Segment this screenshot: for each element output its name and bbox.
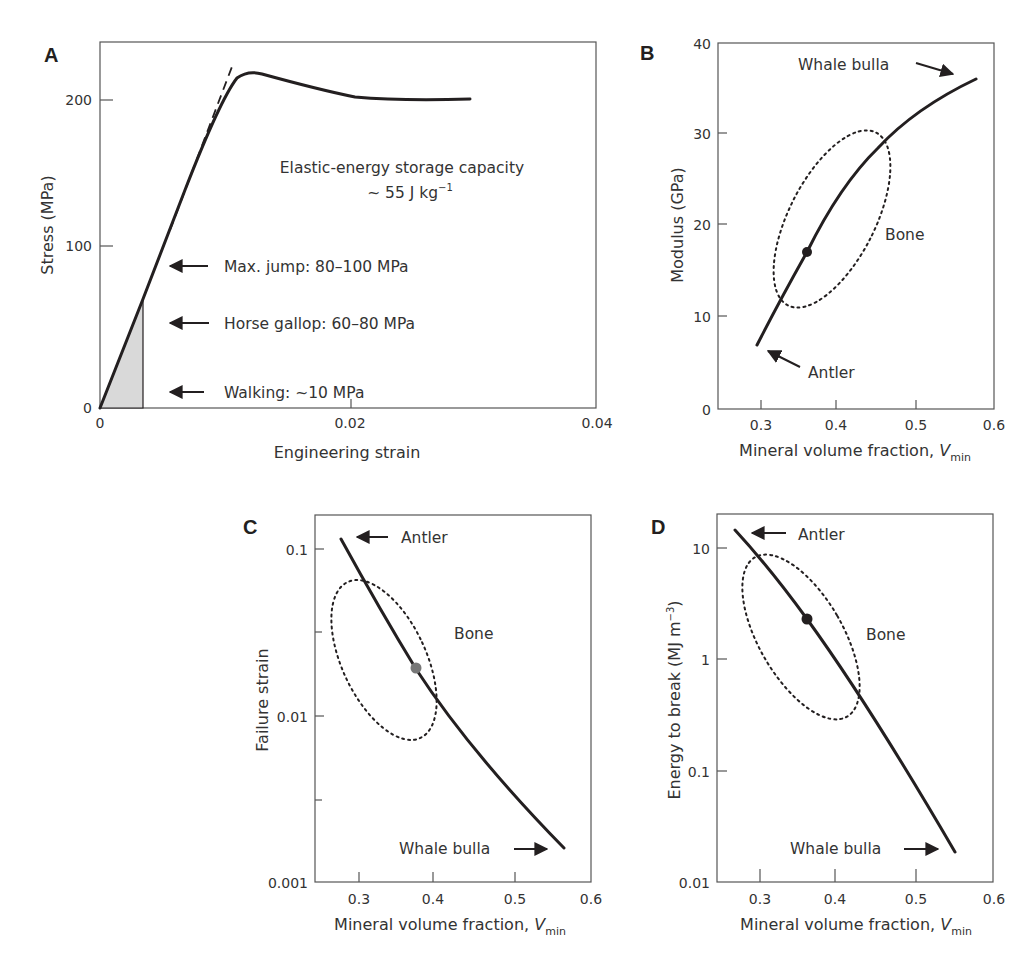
stress-strain-curve <box>100 73 470 408</box>
x-tick-d-05: 0.5 <box>905 891 927 907</box>
label-antler-b: Antler <box>808 364 855 382</box>
y-tick-b-0: 0 <box>702 402 711 418</box>
panel-letter-d: D <box>651 516 665 538</box>
label-antler-c: Antler <box>401 529 448 547</box>
panel-c: C 0.1 0.01 0.001 0.3 0.4 0.5 0.6 Mineral… <box>243 515 602 938</box>
x-tick-a-004: 0.04 <box>581 415 612 431</box>
y-tick-d-10: 10 <box>692 541 710 557</box>
y-tick-d-1: 1 <box>701 652 710 668</box>
bone-region-ellipse-d <box>719 536 884 737</box>
label-bone-b: Bone <box>885 226 924 244</box>
panel-letter-c: C <box>243 516 257 538</box>
y-tick-a-100: 100 <box>65 238 92 254</box>
plot-frame-c <box>315 515 591 882</box>
x-tick-b-06: 0.6 <box>983 417 1005 433</box>
x-tick-c-03: 0.3 <box>348 891 370 907</box>
arrow-whale-bulla-b <box>916 63 953 74</box>
y-tick-a-200: 200 <box>65 92 92 108</box>
label-bone-c: Bone <box>454 625 493 643</box>
bone-typical-point-d <box>802 614 813 625</box>
x-tick-d-03: 0.3 <box>749 891 771 907</box>
x-tick-d-04: 0.4 <box>824 891 846 907</box>
y-tick-c-01: 0.1 <box>286 542 308 558</box>
x-tick-c-05: 0.5 <box>504 891 526 907</box>
x-tick-c-06: 0.6 <box>580 891 602 907</box>
energy-storage-label: Elastic-energy storage capacity <box>280 159 524 177</box>
panel-letter-b: B <box>640 42 654 64</box>
x-tick-b-03: 0.3 <box>750 417 772 433</box>
label-whale-bulla-b: Whale bulla <box>798 56 889 74</box>
y-tick-b-10: 10 <box>693 309 711 325</box>
y-axis-title-a: Stress (MPa) <box>38 175 57 274</box>
y-tick-a-0: 0 <box>83 400 92 416</box>
panel-a: A 200 100 0 0 0.02 0.04 Engineering stra… <box>38 42 613 462</box>
label-bone-d: Bone <box>866 626 905 644</box>
label-antler-d: Antler <box>798 526 845 544</box>
y-tick-b-20: 20 <box>693 217 711 233</box>
energy-to-break-curve <box>735 530 955 852</box>
x-axis-title-c: Mineral volume fraction, Vmin <box>334 915 566 938</box>
plot-frame-b <box>718 43 994 409</box>
bone-typical-point-b <box>802 247 812 257</box>
bone-region-ellipse-c <box>310 564 459 755</box>
arrow-antler-b <box>768 351 800 367</box>
x-axis-title-b: Mineral volume fraction, Vmin <box>739 441 971 464</box>
label-horse-gallop: Horse gallop: 60–80 MPa <box>224 315 415 333</box>
x-tick-c-04: 0.4 <box>422 891 444 907</box>
y-tick-d-001: 0.01 <box>679 875 710 891</box>
x-tick-a-0: 0 <box>96 415 105 431</box>
label-whale-bulla-d: Whale bulla <box>790 840 881 858</box>
x-axis-title-a: Engineering strain <box>274 443 421 462</box>
x-tick-b-04: 0.4 <box>825 417 847 433</box>
figure-canvas: A 200 100 0 0 0.02 0.04 Engineering stra… <box>0 0 1036 971</box>
x-tick-d-06: 0.6 <box>983 891 1005 907</box>
y-axis-title-d: Energy to break (MJ m−3) <box>665 600 684 799</box>
y-tick-b-40: 40 <box>693 36 711 52</box>
y-axis-title-b: Modulus (GPa) <box>668 167 687 283</box>
energy-storage-value: ~ 55 J kg−1 <box>367 182 453 202</box>
y-axis-title-c: Failure strain <box>253 648 272 751</box>
y-tick-d-01: 0.1 <box>688 764 710 780</box>
label-max-jump: Max. jump: 80–100 MPa <box>224 258 409 276</box>
bone-region-ellipse-b <box>750 113 915 325</box>
x-tick-a-002: 0.02 <box>334 415 365 431</box>
panel-letter-a: A <box>44 44 58 66</box>
y-tick-c-0001: 0.001 <box>268 875 308 891</box>
x-tick-b-05: 0.5 <box>905 417 927 433</box>
bone-typical-point-c <box>411 663 422 674</box>
y-tick-c-001: 0.01 <box>277 709 308 725</box>
panel-d: D 10 1 0.1 0.01 0.3 0.4 0.5 0.6 Mineral … <box>651 514 1005 938</box>
label-whale-bulla-c: Whale bulla <box>399 840 490 858</box>
x-axis-title-d: Mineral volume fraction, Vmin <box>740 915 972 938</box>
panel-b: B 40 30 20 10 0 0.3 0.4 0.5 0.6 Mineral … <box>640 36 1005 464</box>
modulus-curve <box>757 79 976 345</box>
plot-frame-d <box>717 514 993 882</box>
y-tick-b-30: 30 <box>693 126 711 142</box>
label-walking: Walking: ~10 MPa <box>224 384 364 402</box>
